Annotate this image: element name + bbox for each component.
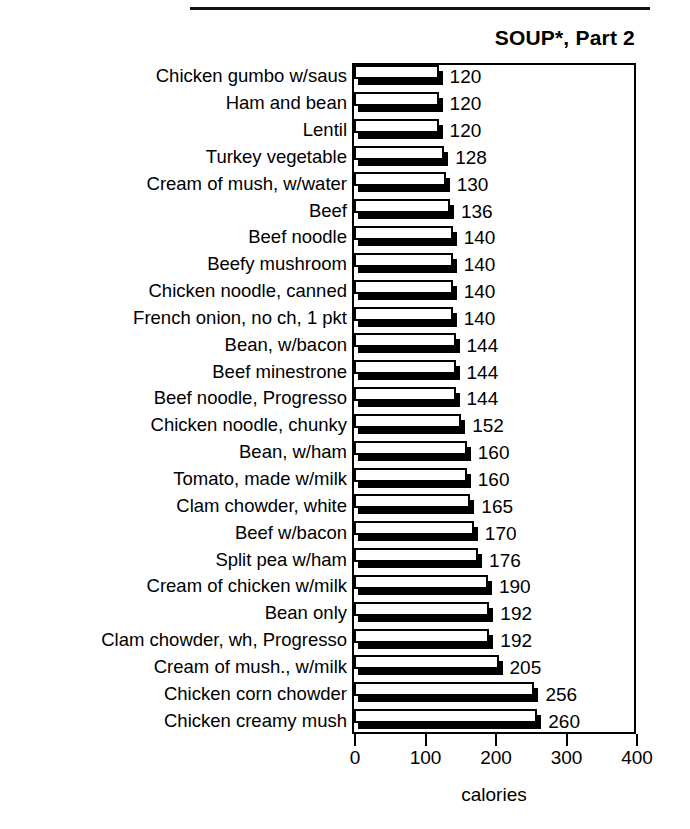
bar-value-label: 192: [500, 631, 532, 650]
bar-row: Cream of mush, w/water130: [0, 170, 690, 197]
x-axis-tick-label: 100: [410, 747, 442, 769]
bar-face: [354, 521, 474, 535]
bar-row: Bean, w/bacon144: [0, 331, 690, 358]
bar-value-label: 256: [545, 684, 577, 703]
category-label: Bean only: [265, 604, 347, 623]
bar-face: [354, 575, 488, 589]
category-label: Chicken corn chowder: [164, 684, 347, 703]
bar: [354, 600, 495, 627]
bar-row: Bean only192: [0, 600, 690, 627]
bar-value-label: 144: [467, 335, 499, 354]
bar-face: [354, 548, 478, 562]
bar-face: [354, 414, 461, 428]
bar-row: Tomato, made w/milk160: [0, 466, 690, 493]
bar-row: French onion, no ch, 1 pkt140: [0, 305, 690, 332]
bar-face: [354, 629, 489, 643]
bar-rows-container: Chicken gumbo w/saus120Ham and bean120Le…: [0, 63, 690, 734]
bar-face: [354, 199, 450, 213]
category-label: Beef: [309, 201, 347, 220]
bar-face: [354, 494, 470, 508]
category-label: Tomato, made w/milk: [173, 470, 347, 489]
category-label: Lentil: [303, 121, 347, 140]
bar-row: Clam chowder, wh, Progresso192: [0, 627, 690, 654]
category-label: Clam chowder, white: [176, 497, 347, 516]
category-label: Beef noodle: [248, 228, 347, 247]
x-axis-title: calories: [352, 784, 636, 806]
bar-row: Split pea w/ham176: [0, 546, 690, 573]
x-axis-tick: [495, 734, 497, 746]
bar-face: [354, 602, 489, 616]
bar-value-label: 136: [461, 201, 493, 220]
bar: [354, 278, 459, 305]
bar: [354, 680, 540, 707]
bar-value-label: 140: [464, 308, 496, 327]
bar-value-label: 205: [510, 657, 542, 676]
bar: [354, 627, 495, 654]
x-axis-tick-label: 0: [350, 747, 361, 769]
bar: [354, 466, 473, 493]
bar-row: Chicken noodle, canned140: [0, 278, 690, 305]
bar: [354, 305, 459, 332]
category-label: Beef noodle, Progresso: [154, 389, 347, 408]
bar-face: [354, 146, 444, 160]
bar-face: [354, 172, 446, 186]
x-axis-tick: [636, 734, 638, 746]
bar: [354, 197, 456, 224]
category-label: French onion, no ch, 1 pkt: [133, 309, 347, 328]
bar: [354, 144, 450, 171]
bar-value-label: 144: [467, 362, 499, 381]
bar-face: [354, 709, 537, 723]
bar-row: Clam chowder, white165: [0, 492, 690, 519]
category-label: Bean, w/ham: [239, 443, 347, 462]
bar-row: Cream of chicken w/milk190: [0, 573, 690, 600]
bar-value-label: 190: [499, 577, 531, 596]
bar-row: Beefy mushroom140: [0, 251, 690, 278]
bar-face: [354, 226, 453, 240]
category-label: Chicken gumbo w/saus: [156, 67, 347, 86]
bar-row: Ham and bean120: [0, 90, 690, 117]
bar-face: [354, 682, 534, 696]
bar-value-label: 170: [485, 523, 517, 542]
category-label: Beefy mushroom: [207, 255, 347, 274]
bar-face: [354, 655, 499, 669]
bar-face: [354, 280, 453, 294]
bar-face: [354, 92, 439, 106]
bar-value-label: 140: [464, 228, 496, 247]
x-axis-tick-label: 200: [480, 747, 512, 769]
chart-title: SOUP*, Part 2: [495, 26, 635, 50]
bar-value-label: 192: [500, 604, 532, 623]
bar-value-label: 152: [472, 416, 504, 435]
bar-face: [354, 333, 456, 347]
bar: [354, 385, 462, 412]
category-label: Bean, w/bacon: [225, 336, 347, 355]
bar: [354, 439, 473, 466]
bar-value-label: 120: [450, 121, 482, 140]
bar-row: Cream of mush., w/milk205: [0, 653, 690, 680]
bar: [354, 358, 462, 385]
bar: [354, 251, 459, 278]
bar-row: Chicken creamy mush260: [0, 707, 690, 734]
category-label: Chicken creamy mush: [164, 711, 347, 730]
bar-face: [354, 119, 439, 133]
category-label: Beef minestrone: [212, 362, 347, 381]
bar: [354, 90, 445, 117]
category-label: Cream of mush, w/water: [147, 175, 347, 194]
bar-row: Chicken corn chowder256: [0, 680, 690, 707]
bar: [354, 117, 445, 144]
bar-row: Lentil120: [0, 117, 690, 144]
category-label: Split pea w/ham: [215, 550, 347, 569]
bar-row: Beef136: [0, 197, 690, 224]
bar-row: Beef noodle, Progresso144: [0, 385, 690, 412]
x-axis-tick-label: 300: [551, 747, 583, 769]
bar: [354, 224, 459, 251]
bar-row: Bean, w/ham160: [0, 439, 690, 466]
category-label: Beef w/bacon: [235, 523, 347, 542]
header-rule: [190, 7, 650, 10]
x-axis-tick: [566, 734, 568, 746]
category-label: Cream of chicken w/milk: [147, 577, 347, 596]
bar-value-label: 176: [489, 550, 521, 569]
bar-row: Turkey vegetable128: [0, 144, 690, 171]
bar: [354, 573, 494, 600]
bar-face: [354, 253, 453, 267]
bar-row: Chicken gumbo w/saus120: [0, 63, 690, 90]
